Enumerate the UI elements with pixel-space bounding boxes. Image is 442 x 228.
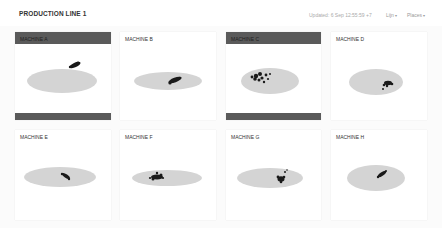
scatter-plot: [226, 32, 321, 120]
scatter-plot: [15, 32, 111, 120]
scatter-plot: [120, 32, 216, 120]
machine-card-g[interactable]: MACHINE G: [226, 130, 321, 220]
places-dropdown[interactable]: Places▾: [407, 12, 425, 18]
scatter-plot: [226, 130, 321, 220]
scatter-plot: [15, 130, 111, 220]
scatter-plot: [331, 130, 427, 220]
machine-card-f[interactable]: MACHINE F: [120, 130, 216, 220]
places-dropdown-label: Places: [407, 12, 422, 18]
machine-card-h[interactable]: MACHINE H: [331, 130, 427, 220]
scatter-plot: [331, 32, 427, 120]
lijn-dropdown[interactable]: Lijn▾: [386, 12, 397, 18]
updated-timestamp: Updated: 6 Sep 12:55:59 +7: [309, 12, 372, 18]
lijn-dropdown-label: Lijn: [386, 12, 394, 18]
machine-card-a[interactable]: MACHINE A: [15, 32, 111, 120]
caret-down-icon: ▾: [395, 13, 397, 18]
scatter-plot: [120, 130, 216, 220]
machine-card-b[interactable]: MACHINE B: [120, 32, 216, 120]
alarm-footer: [226, 113, 321, 120]
alarm-footer: [15, 113, 111, 120]
caret-down-icon: ▾: [423, 13, 425, 18]
machine-card-c[interactable]: MACHINE C: [226, 32, 321, 120]
page-title: PRODUCTION LINE 1: [19, 10, 86, 17]
machine-card-e[interactable]: MACHINE E: [15, 130, 111, 220]
top-bar: PRODUCTION LINE 1 Updated: 6 Sep 12:55:5…: [0, 0, 442, 26]
machine-card-d[interactable]: MACHINE D: [331, 32, 427, 120]
